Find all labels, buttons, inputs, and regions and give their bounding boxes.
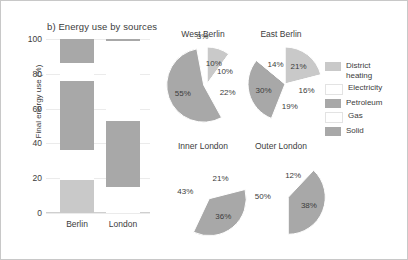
x-tick-label: London: [93, 219, 153, 229]
bar-stack[interactable]: London: [106, 39, 140, 213]
bar-chart: Final energy use (%) 020406080100 Berlin…: [13, 35, 153, 243]
y-tick-label: 40: [33, 138, 42, 148]
legend-swatch: [325, 99, 341, 108]
pie-graphic: [165, 154, 249, 238]
pie-slice-label: 19%: [282, 101, 298, 110]
pie-slice-label: 55%: [175, 88, 191, 97]
pie-slice-label: 43%: [177, 187, 193, 196]
pie-slice-label: 21%: [291, 62, 307, 71]
legend-label: Districtheating: [346, 61, 372, 80]
y-tick-label: 0: [37, 208, 42, 218]
pie-slice-label: 22%: [220, 88, 236, 97]
legend-label: Petroleum: [346, 98, 382, 108]
bar-segment: [60, 150, 94, 180]
bar-stack[interactable]: Berlin: [60, 39, 94, 213]
gridline: [46, 213, 150, 214]
y-tick-label: 20: [33, 173, 42, 183]
legend-label: Gas: [348, 111, 363, 121]
legend: DistrictheatingElectricityPetroleumGasSo…: [325, 61, 401, 139]
pie-slice-label: 3%: [197, 32, 209, 41]
legend-label: Electricity: [348, 83, 382, 93]
bar-segment: [60, 180, 94, 213]
y-tick-label: 100: [28, 34, 42, 44]
legend-label: Solid: [346, 126, 364, 136]
pie-slice-label: 38%: [301, 201, 317, 210]
pie-slice-label: 21%: [213, 174, 229, 183]
bar-segment: [106, 121, 140, 187]
bar-segment: [60, 81, 94, 151]
pie-slice-label: 36%: [215, 211, 231, 220]
bar-segment: [60, 63, 94, 80]
pie-slice-label: 50%: [255, 192, 271, 201]
bar-segment: [106, 187, 140, 213]
bar-segment: [106, 39, 140, 41]
pie-title-east-berlin: East Berlin: [239, 29, 323, 39]
legend-item[interactable]: Districtheating: [325, 61, 401, 80]
legend-swatch: [325, 84, 343, 95]
figure-panel: b) Energy use by sources Final energy us…: [0, 0, 408, 260]
y-tick-label: 80: [33, 69, 42, 79]
pie-slice-label: 30%: [255, 85, 271, 94]
pie-graphic: [243, 42, 327, 126]
pie-slice-label: 14%: [268, 59, 284, 68]
legend-swatch: [325, 127, 341, 136]
pie-title-inner-london: Inner London: [161, 141, 245, 151]
legend-swatch: [325, 62, 341, 71]
pie-graphic: [165, 42, 249, 126]
y-tick-label: 60: [33, 104, 42, 114]
page-title: b) Energy use by sources: [47, 21, 157, 32]
bar-segment: [60, 39, 94, 63]
legend-item[interactable]: Solid: [325, 126, 401, 136]
legend-swatch: [325, 112, 343, 123]
pie-slice-label: 10%: [217, 66, 233, 75]
bar-segment: [106, 41, 140, 121]
bar-plot-area: 020406080100 BerlinLondon: [46, 39, 150, 213]
legend-item[interactable]: Electricity: [325, 83, 401, 95]
legend-item[interactable]: Petroleum: [325, 98, 401, 108]
pie-slice-label: 16%: [298, 85, 314, 94]
legend-item[interactable]: Gas: [325, 111, 401, 123]
pie-slice-label: 12%: [285, 171, 301, 180]
pie-title-outer-london: Outer London: [239, 141, 323, 151]
